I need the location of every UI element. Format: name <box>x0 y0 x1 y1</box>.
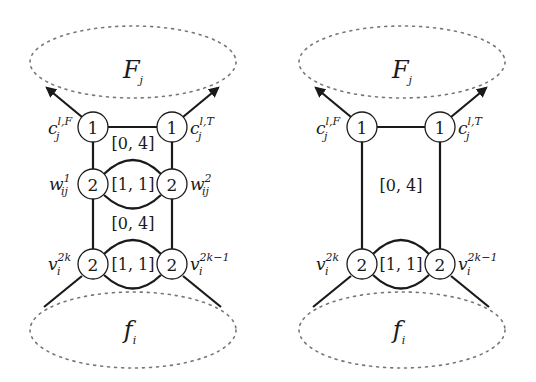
svg-text:1: 1 <box>88 118 99 138</box>
region-f-i-label-right: fi <box>391 316 406 347</box>
label-c-T-left: cl,Tj <box>190 115 216 143</box>
edge-v-arc-bottom-right <box>373 275 429 289</box>
label-v2k-1-right: v2k−1i <box>458 251 498 278</box>
left-gadget: Fj fi [0, 4] [1, 1] [0, 4] [1, 1] 1 1 <box>30 26 236 368</box>
edge-w-arc-bottom <box>104 195 161 209</box>
svg-text:1: 1 <box>435 118 446 138</box>
label-w2-left: w2ij <box>190 172 212 198</box>
region-F-j-label-left: Fj <box>122 56 144 87</box>
edge-v2k-f <box>44 276 82 307</box>
diagram-canvas: Fj fi [0, 4] [1, 1] [0, 4] [1, 1] 1 1 <box>0 0 536 382</box>
region-f-i-label-left: fi <box>122 316 137 347</box>
node-c-F-left: 1 <box>78 112 108 142</box>
edge-v-arc-top <box>104 240 161 254</box>
node-w2-left: 2 <box>157 169 187 199</box>
interval-label: [0, 4] <box>111 214 154 233</box>
interval-label: [1, 1] <box>379 255 422 274</box>
edge-v-arc-bottom <box>104 275 161 289</box>
label-v2k-left: v2ki <box>48 251 72 278</box>
node-c-T-right: 1 <box>425 112 455 142</box>
label-w1-left: w1ij <box>49 172 71 198</box>
node-v2k-1-right: 2 <box>425 249 455 279</box>
edge-w-arc-top <box>104 160 161 174</box>
arrow-to-F-right-1 <box>316 88 351 117</box>
interval-label: [1, 1] <box>111 255 154 274</box>
svg-text:2: 2 <box>167 255 178 275</box>
svg-text:2: 2 <box>357 255 368 275</box>
label-c-F-left: cl,Fj <box>48 115 73 143</box>
svg-text:2: 2 <box>88 255 99 275</box>
node-c-F-right: 1 <box>347 112 377 142</box>
edge-v-arc-top-right <box>373 240 429 254</box>
node-v2k-1-left: 2 <box>157 249 187 279</box>
arrow-to-F-right-2 <box>451 88 486 117</box>
node-v2k-left: 2 <box>78 249 108 279</box>
interval-label: [0, 4] <box>379 176 422 195</box>
label-v2k-1-left: v2k−1i <box>190 251 230 278</box>
label-c-T-right: cl,Tj <box>458 115 484 143</box>
svg-text:1: 1 <box>357 118 368 138</box>
svg-text:2: 2 <box>435 255 446 275</box>
svg-text:1: 1 <box>167 118 178 138</box>
svg-text:2: 2 <box>167 175 178 195</box>
label-c-F-right: cl,Fj <box>316 115 341 143</box>
interval-label: [0, 4] <box>111 134 154 153</box>
node-c-T-left: 1 <box>157 112 187 142</box>
arrow-to-F-left-1 <box>47 88 82 117</box>
edge-v2k1-f-right <box>451 276 489 307</box>
svg-text:2: 2 <box>88 175 99 195</box>
label-v2k-right: v2ki <box>316 251 340 278</box>
arrow-to-F-left-2 <box>183 88 218 117</box>
node-v2k-right: 2 <box>347 249 377 279</box>
region-F-j-label-right: Fj <box>391 56 413 87</box>
right-gadget: Fj fi [0, 4] [1, 1] 1 1 2 2 cl,Fj <box>299 26 505 368</box>
region-f-i-right <box>299 292 505 368</box>
edge-v2k-f-right <box>313 276 351 307</box>
node-w1-left: 2 <box>78 169 108 199</box>
region-f-i-left <box>30 292 236 368</box>
interval-label: [1, 1] <box>111 175 154 194</box>
